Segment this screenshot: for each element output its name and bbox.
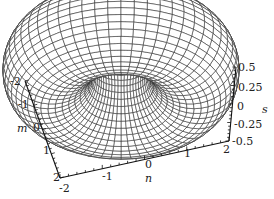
torus-surface-plot (0, 0, 274, 199)
s-tick-label: -0.25 (234, 119, 262, 130)
m-tick-label: -2 (10, 76, 21, 87)
n-tick-label: 1 (184, 148, 191, 159)
m-tick-label: 0 (33, 122, 40, 133)
n-axis-title: n (145, 173, 152, 184)
s-tick-label: 0.5 (238, 62, 256, 73)
n-tick-label: 0 (145, 159, 152, 170)
n-tick-label: -1 (102, 171, 113, 182)
n-tick-label: -2 (59, 183, 70, 194)
n-tick-label: 2 (223, 144, 230, 155)
m-tick-label: -1 (18, 99, 29, 110)
torus-wireframe (3, 0, 240, 159)
m-tick-label: 1 (43, 145, 50, 156)
s-tick-label: 0 (237, 101, 244, 112)
s-axis-title: s (262, 104, 268, 115)
m-axis-title: m (17, 123, 27, 134)
s-tick-label: -0.5 (232, 136, 253, 147)
s-tick-label: 0.25 (238, 82, 263, 93)
